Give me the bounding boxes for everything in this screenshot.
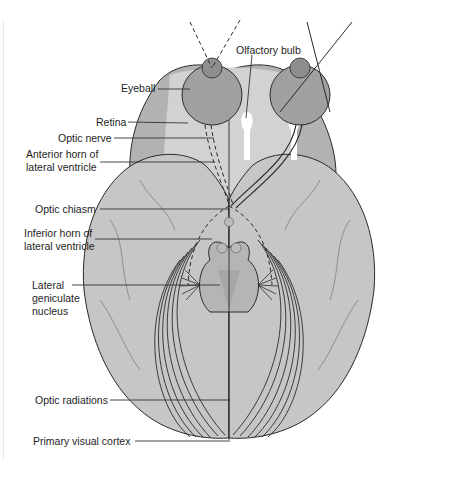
label-anterior-horn-line1: Anterior horn of [26, 148, 98, 161]
label-lgn-line3: nucleus [32, 305, 68, 318]
label-inferior-horn-line2: lateral ventricle [24, 240, 95, 253]
label-inferior-horn-line1: Inferior horn of [24, 227, 92, 240]
label-optic-radiations: Optic radiations [35, 394, 108, 407]
label-lgn-line1: Lateral [32, 279, 64, 292]
label-primary-visual-cortex: Primary visual cortex [33, 435, 130, 448]
label-lgn-line2: geniculate [32, 292, 80, 305]
label-anterior-horn-line2: lateral ventricle [26, 161, 97, 174]
label-eyeball: Eyeball [121, 82, 155, 95]
label-retina: Retina [96, 116, 126, 129]
label-optic-chiasm: Optic chiasm [35, 203, 96, 216]
label-optic-nerve: Optic nerve [58, 132, 112, 145]
label-olfactory-bulb: Olfactory bulb [236, 44, 301, 57]
